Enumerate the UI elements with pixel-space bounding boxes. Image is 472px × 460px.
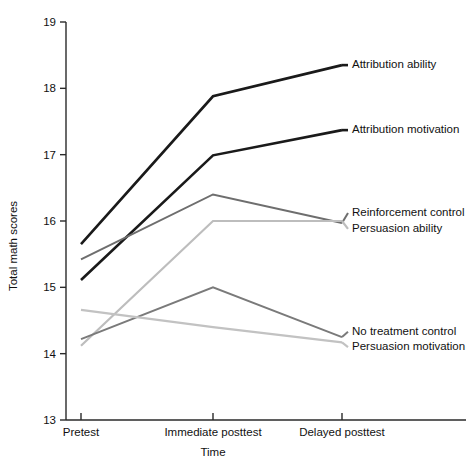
y-tick-label: 17 — [43, 149, 56, 161]
series-label-layer: Attribution abilityAttribution motivatio… — [352, 58, 465, 352]
chart-figure: 13141516171819 PretestImmediate posttest… — [0, 0, 472, 460]
x-tick-layer: PretestImmediate posttestDelayed posttes… — [63, 413, 386, 438]
y-tick-label: 16 — [43, 215, 56, 227]
series-layer — [81, 65, 342, 346]
series-line-5 — [81, 310, 342, 343]
y-tick-label: 18 — [43, 82, 56, 94]
x-tick-label: Pretest — [63, 426, 100, 438]
series-leader-4 — [342, 332, 348, 337]
leader-line-layer — [342, 65, 348, 347]
x-axis-title: Time — [200, 446, 225, 458]
series-line-1 — [81, 130, 342, 280]
series-label-1: Attribution motivation — [352, 123, 459, 135]
line-chart: 13141516171819 PretestImmediate posttest… — [0, 0, 472, 460]
series-label-5: Persuasion motivation — [352, 340, 465, 352]
y-tick-layer: 13141516171819 — [43, 16, 66, 426]
y-tick-label: 15 — [43, 281, 56, 293]
series-line-2 — [81, 194, 342, 259]
series-leader-3 — [342, 221, 348, 229]
y-axis-title: Total math scores — [7, 201, 19, 291]
series-line-0 — [81, 65, 342, 244]
y-tick-label: 19 — [43, 16, 56, 28]
y-tick-label: 14 — [43, 348, 56, 360]
series-label-3: Persuasion ability — [352, 222, 442, 234]
series-leader-5 — [342, 342, 348, 347]
series-label-0: Attribution ability — [352, 58, 437, 70]
series-line-4 — [81, 287, 342, 339]
series-label-2: Reinforcement control — [352, 206, 465, 218]
y-tick-label: 13 — [43, 414, 56, 426]
x-tick-label: Delayed posttest — [299, 426, 385, 438]
x-tick-label: Immediate posttest — [164, 426, 262, 438]
series-label-4: No treatment control — [352, 325, 456, 337]
